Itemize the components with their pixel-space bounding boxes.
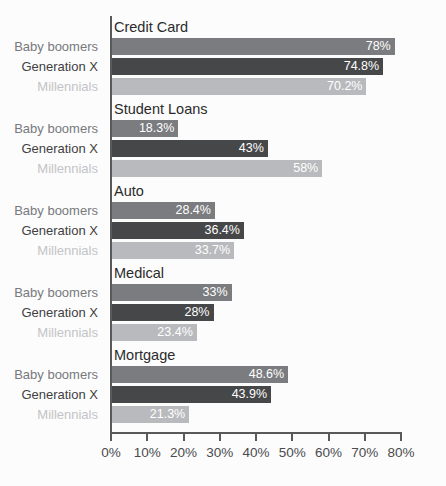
bar-group: AutoBaby boomers28.4%Generation X36.4%Mi… <box>0 180 446 260</box>
bar-row: Generation X28% <box>0 304 446 322</box>
series-label: Generation X <box>0 304 98 322</box>
bar-row: Baby boomers18.3% <box>0 120 446 138</box>
bar-value-label: 74.8% <box>344 58 383 75</box>
x-axis-tick-mark <box>183 432 185 441</box>
x-axis-tick-mark <box>219 432 221 441</box>
bar: 74.8% <box>112 58 383 75</box>
bar-value-label: 33.7% <box>195 242 234 259</box>
bar: 23.4% <box>112 324 197 341</box>
bar: 33.7% <box>112 242 234 259</box>
plot-area: Credit CardBaby boomers78%Generation X74… <box>0 16 446 426</box>
bar: 58% <box>112 160 322 177</box>
bar: 43.9% <box>112 386 271 403</box>
bar: 78% <box>112 38 395 55</box>
x-axis-tick-mark <box>255 432 257 441</box>
bar-value-label: 43% <box>239 140 268 157</box>
bar-value-label: 28% <box>184 304 213 321</box>
bar: 28% <box>112 304 214 321</box>
x-axis-tick-mark <box>146 432 148 441</box>
bar-group: MortgageBaby boomers48.6%Generation X43.… <box>0 344 446 424</box>
bar-row: Generation X36.4% <box>0 222 446 240</box>
bar-groups-container: Credit CardBaby boomers78%Generation X74… <box>0 16 446 424</box>
bar-value-label: 36.4% <box>204 222 243 239</box>
bar-row: Generation X43.9% <box>0 386 446 404</box>
series-label: Millennials <box>0 406 98 424</box>
series-label: Generation X <box>0 222 98 240</box>
bar-row: Millennials21.3% <box>0 406 446 424</box>
series-label: Baby boomers <box>0 202 98 220</box>
bar: 28.4% <box>112 202 215 219</box>
bar-row: Millennials58% <box>0 160 446 178</box>
x-axis-tick-mark <box>364 432 366 441</box>
bar-row: Baby boomers48.6% <box>0 366 446 384</box>
bar-group-title: Mortgage <box>114 344 446 366</box>
bar-value-label: 78% <box>366 38 395 55</box>
bar-group-title: Auto <box>114 180 446 202</box>
series-label: Generation X <box>0 58 98 76</box>
bar-group: Student LoansBaby boomers18.3%Generation… <box>0 98 446 178</box>
bar: 43% <box>112 140 268 157</box>
series-label: Millennials <box>0 78 98 96</box>
series-label: Baby boomers <box>0 38 98 56</box>
bar: 48.6% <box>112 366 288 383</box>
x-axis-tick-mark <box>291 432 293 441</box>
bar-group: MedicalBaby boomers33%Generation X28%Mil… <box>0 262 446 342</box>
x-axis: 0%10%20%30%40%50%60%70%80% <box>0 432 446 486</box>
x-axis-tick-mark <box>400 432 402 441</box>
bar-value-label: 70.2% <box>327 78 366 95</box>
bar-row: Baby boomers33% <box>0 284 446 302</box>
x-axis-tick-label: 80% <box>376 444 426 462</box>
x-axis-tick-mark <box>110 432 112 441</box>
bar-value-label: 58% <box>293 160 322 177</box>
bar-row: Millennials70.2% <box>0 78 446 96</box>
bar: 36.4% <box>112 222 244 239</box>
bar-value-label: 33% <box>203 284 232 301</box>
bar-row: Millennials23.4% <box>0 324 446 342</box>
bar-group-title: Student Loans <box>114 98 446 120</box>
series-label: Millennials <box>0 242 98 260</box>
bar: 18.3% <box>112 120 178 137</box>
bar-value-label: 21.3% <box>150 406 189 423</box>
bar-value-label: 23.4% <box>157 324 196 341</box>
x-axis-tick-mark <box>328 432 330 441</box>
bar: 33% <box>112 284 232 301</box>
bar-value-label: 43.9% <box>232 386 271 403</box>
bar-row: Millennials33.7% <box>0 242 446 260</box>
bar-value-label: 18.3% <box>139 120 178 137</box>
series-label: Millennials <box>0 324 98 342</box>
bar-value-label: 28.4% <box>175 202 214 219</box>
bar: 70.2% <box>112 78 366 95</box>
bar-row: Generation X43% <box>0 140 446 158</box>
bar-group: Credit CardBaby boomers78%Generation X74… <box>0 16 446 96</box>
bar-group-title: Medical <box>114 262 446 284</box>
grouped-bar-chart: Credit CardBaby boomers78%Generation X74… <box>0 0 446 486</box>
series-label: Baby boomers <box>0 284 98 302</box>
bar-row: Baby boomers28.4% <box>0 202 446 220</box>
bar-row: Generation X74.8% <box>0 58 446 76</box>
series-label: Generation X <box>0 386 98 404</box>
series-label: Millennials <box>0 160 98 178</box>
bar: 21.3% <box>112 406 189 423</box>
series-label: Baby boomers <box>0 366 98 384</box>
bar-group-title: Credit Card <box>114 16 446 38</box>
series-label: Baby boomers <box>0 120 98 138</box>
series-label: Generation X <box>0 140 98 158</box>
bar-row: Baby boomers78% <box>0 38 446 56</box>
bar-value-label: 48.6% <box>249 366 288 383</box>
